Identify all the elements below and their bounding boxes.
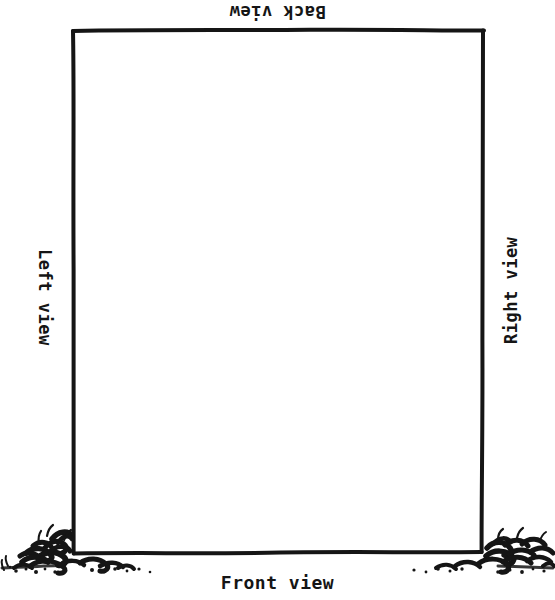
box-edge-top: [73, 30, 484, 31]
box-outline: [73, 30, 484, 554]
label-front-view: Front view: [0, 574, 555, 592]
diagram-canvas: Back view Front view Left view Right vie…: [0, 0, 555, 600]
box-edge-bottom: [74, 552, 482, 553]
bush-right: [436, 528, 554, 572]
bush-left: [2, 525, 134, 573]
label-right-view: Right view: [503, 248, 520, 344]
hand-drawn-scene: [0, 0, 555, 600]
box-edge-right: [482, 31, 484, 553]
box-edge-left: [73, 31, 74, 553]
label-back-view: Back view: [0, 3, 555, 20]
label-left-view: Left view: [36, 249, 53, 345]
